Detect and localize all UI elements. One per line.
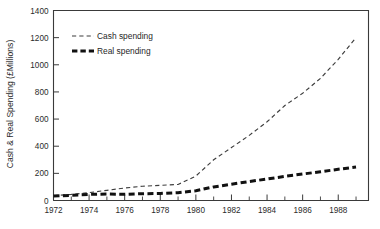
legend-label-real-spending: Real spending bbox=[97, 46, 151, 56]
y-tick-label: 200 bbox=[35, 169, 49, 178]
line-chart: 0200400600800100012001400 19721974197619… bbox=[0, 0, 380, 229]
x-tick-label: 1972 bbox=[44, 206, 63, 215]
x-tick-label: 1986 bbox=[294, 206, 313, 215]
x-tick-label: 1982 bbox=[222, 206, 241, 215]
y-tick-label: 0 bbox=[44, 197, 49, 206]
x-tick-label: 1984 bbox=[258, 206, 277, 215]
chart-figure: 0200400600800100012001400 19721974197619… bbox=[0, 0, 380, 229]
x-axis-tick-labels: 197219741976197819801982198419861988 bbox=[44, 206, 347, 215]
x-tick-label: 1978 bbox=[151, 206, 170, 215]
y-tick-label: 400 bbox=[35, 142, 49, 151]
x-tick-label: 1976 bbox=[116, 206, 135, 215]
y-axis-title: Cash & Real Spending (£Millions) bbox=[5, 40, 15, 169]
y-tick-label: 1200 bbox=[30, 34, 49, 43]
x-tick-label: 1974 bbox=[80, 206, 99, 215]
x-tick-label: 1988 bbox=[329, 206, 348, 215]
y-tick-label: 600 bbox=[35, 115, 49, 124]
y-tick-label: 1400 bbox=[30, 7, 49, 16]
legend-label-cash-spending: Cash spending bbox=[97, 31, 153, 41]
x-tick-label: 1980 bbox=[187, 206, 206, 215]
y-tick-label: 1000 bbox=[30, 61, 49, 70]
y-tick-label: 800 bbox=[35, 88, 49, 97]
